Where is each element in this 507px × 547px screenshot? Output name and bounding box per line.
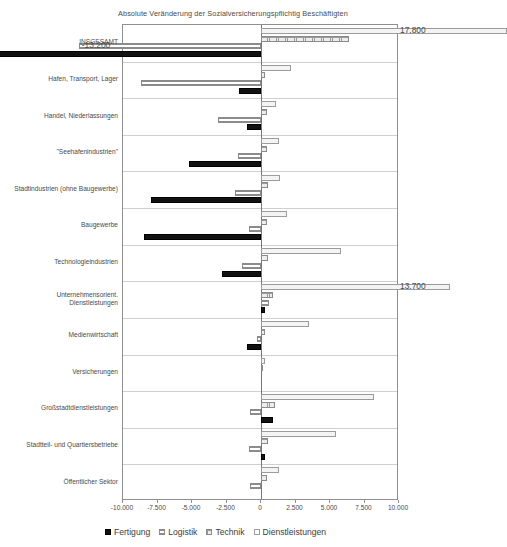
bar-stadtindustrien-ohne-baugewerbe-logistik xyxy=(235,190,261,196)
y-axis-label-baugewerbe: Baugewerbe xyxy=(8,221,118,229)
bar-technologieindustrien-technik xyxy=(261,255,268,261)
grid-line xyxy=(123,208,397,209)
bar-technologieindustrien-dienstleistungen xyxy=(261,248,341,254)
plot-inner xyxy=(123,25,397,499)
bar-handel-niederlassungen-technik xyxy=(261,109,267,115)
y-axis-label-medienwirtschaft: Medienwirtschaft xyxy=(8,331,118,339)
bar-unternehmensorient-dienstleistungen-fertigung xyxy=(261,307,265,313)
y-axis-label-offentlicher-sektor: Öffentlicher Sektor xyxy=(8,478,118,486)
x-tick xyxy=(295,500,296,503)
x-tick xyxy=(191,500,192,503)
x-tick xyxy=(398,500,399,503)
grid-line xyxy=(123,318,397,319)
bar-grossstadtdienstleistungen-technik xyxy=(261,402,275,408)
x-tick-label: -10.000 xyxy=(111,504,133,511)
grid-line xyxy=(123,135,397,136)
bar-versicherungen-technik xyxy=(261,365,263,371)
legend-label: Logistik xyxy=(168,527,197,537)
legend-swatch-logistik-icon xyxy=(159,529,165,535)
bar-medienwirtschaft-dienstleistungen xyxy=(261,321,309,327)
x-tick xyxy=(226,500,227,503)
y-axis-label-handel-niederlassungen: Handel, Niederlassungen xyxy=(8,111,118,119)
bar-stadtteil-und-quartiersbetriebe-logistik xyxy=(249,446,261,452)
legend-item-logistik[interactable]: Logistik xyxy=(159,527,197,537)
y-axis-label-grossstadtdienstleistungen: Großstadtdienstleistungen xyxy=(8,404,118,412)
x-tick xyxy=(329,500,330,503)
bar-seehafenindustrien-technik xyxy=(261,146,267,152)
legend-item-dienstleistungen[interactable]: Dienstleistungen xyxy=(254,527,327,537)
x-tick-label: -7.500 xyxy=(147,504,166,511)
bar-baugewerbe-technik xyxy=(261,219,267,225)
annotation-17-800: 17.800 xyxy=(400,25,426,35)
grid-line xyxy=(123,391,397,392)
bar-stadtteil-und-quartiersbetriebe-technik xyxy=(261,438,268,444)
bar-medienwirtschaft-logistik xyxy=(257,336,261,342)
grid-line xyxy=(123,281,397,282)
chart-title: Absolute Veränderung der Sozialversicher… xyxy=(118,9,348,18)
grid-line xyxy=(123,98,397,99)
legend-swatch-fertigung-icon xyxy=(105,529,111,535)
annotation-13-200: -13.200 xyxy=(82,40,110,50)
x-tick xyxy=(364,500,365,503)
bar-insgesamt-dienstleistungen xyxy=(261,28,507,34)
legend-item-fertigung[interactable]: Fertigung xyxy=(105,527,150,537)
x-tick-label: -2.500 xyxy=(216,504,235,511)
legend-label: Dienstleistungen xyxy=(263,527,327,537)
bar-unternehmensorient-dienstleistungen-technik xyxy=(261,292,273,298)
x-tick xyxy=(157,500,158,503)
bar-technologieindustrien-logistik xyxy=(242,263,261,269)
plot-area xyxy=(122,24,398,500)
bar-technologieindustrien-fertigung xyxy=(222,271,261,277)
bar-medienwirtschaft-technik xyxy=(261,329,265,335)
bar-stadtteil-und-quartiersbetriebe-fertigung xyxy=(261,454,265,460)
legend-item-technik[interactable]: Technik xyxy=(206,527,244,537)
bar-baugewerbe-logistik xyxy=(249,226,261,232)
bar-seehafenindustrien-logistik xyxy=(238,153,261,159)
bar-hafen-transport-lager-technik xyxy=(261,72,265,78)
bar-handel-niederlassungen-fertigung xyxy=(247,124,261,130)
bar-hafen-transport-lager-fertigung xyxy=(239,88,261,94)
grid-line xyxy=(123,245,397,246)
y-axis-label-seehafenindustrien: "Seehafenindustrien" xyxy=(8,148,118,156)
grid-line xyxy=(123,62,397,63)
bar-unternehmensorient-dienstleistungen-logistik xyxy=(261,300,269,306)
bar-medienwirtschaft-fertigung xyxy=(247,344,261,350)
bar-seehafenindustrien-fertigung xyxy=(189,161,261,167)
bar-stadtindustrien-ohne-baugewerbe-technik xyxy=(261,182,268,188)
y-axis-label-versicherungen: Versicherungen xyxy=(8,368,118,376)
bar-versicherungen-dienstleistungen xyxy=(261,358,265,364)
y-axis-label-unternehmensorient-dienstleistungen: Unternehmensorient. Dienstleistungen xyxy=(8,290,118,306)
y-axis-label-stadtindustrien-ohne-baugewerbe: Stadtindustrien (ohne Baugewerbe) xyxy=(8,185,118,193)
bar-hafen-transport-lager-logistik xyxy=(141,80,261,86)
bar-grossstadtdienstleistungen-logistik xyxy=(250,409,261,415)
x-tick-label: 10.000 xyxy=(388,504,408,511)
grid-line xyxy=(123,428,397,429)
bar-handel-niederlassungen-dienstleistungen xyxy=(261,101,276,107)
bar-stadtindustrien-ohne-baugewerbe-dienstleistungen xyxy=(261,175,280,181)
x-tick-label: 2.500 xyxy=(286,504,303,511)
bar-stadtindustrien-ohne-baugewerbe-fertigung xyxy=(151,197,261,203)
legend-label: Technik xyxy=(215,527,244,537)
x-tick xyxy=(122,500,123,503)
bar-seehafenindustrien-dienstleistungen xyxy=(261,138,279,144)
annotation-13-700: 13.700 xyxy=(400,281,426,291)
bar-grossstadtdienstleistungen-dienstleistungen xyxy=(261,394,374,400)
bar-offentlicher-sektor-dienstleistungen xyxy=(261,467,279,473)
zero-axis-line xyxy=(261,25,262,499)
bar-offentlicher-sektor-logistik xyxy=(250,483,261,489)
grid-line xyxy=(123,171,397,172)
bar-grossstadtdienstleistungen-fertigung xyxy=(261,417,273,423)
grid-line xyxy=(123,464,397,465)
y-axis-label-technologieindustrien: Technologieindustrien xyxy=(8,258,118,266)
bar-handel-niederlassungen-logistik xyxy=(218,117,261,123)
x-tick-label: 0 xyxy=(258,504,262,511)
y-axis-label-stadtteil-und-quartiersbetriebe: Stadtteil- und Quartiersbetriebe xyxy=(8,441,118,449)
x-tick xyxy=(260,500,261,503)
bar-baugewerbe-fertigung xyxy=(144,234,261,240)
chart-legend: FertigungLogistikTechnikDienstleistungen xyxy=(0,527,431,537)
bar-insgesamt-fertigung xyxy=(0,51,261,57)
x-tick-label: 5.000 xyxy=(321,504,338,511)
legend-label: Fertigung xyxy=(114,527,150,537)
bar-offentlicher-sektor-technik xyxy=(261,475,267,481)
